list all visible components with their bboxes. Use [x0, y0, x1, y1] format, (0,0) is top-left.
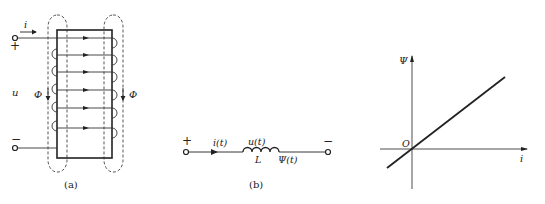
- origin-label: O: [402, 138, 410, 149]
- inductor-coil-icon: [243, 148, 279, 153]
- diagram-canvas: i + − u Φ Φ (a) + − i(t) u(t) L Ψ(t) (b)…: [0, 0, 545, 204]
- figure-c-graph: Ψ i O: [380, 55, 528, 189]
- minus-sign: −: [323, 134, 333, 148]
- plus-sign: +: [182, 134, 192, 148]
- flux-linkage-label: Ψ(t): [278, 154, 298, 165]
- flux-label-left: Φ: [34, 89, 42, 100]
- terminal-minus: [13, 146, 18, 151]
- y-axis-label: Ψ: [399, 55, 409, 66]
- flux-label-right: Φ: [129, 89, 137, 100]
- inductance-label: L: [254, 154, 261, 165]
- figure-a-coil: i + − u Φ Φ (a): [10, 15, 137, 190]
- plus-sign: +: [10, 39, 20, 53]
- winding-arrows: [83, 36, 89, 130]
- terminal-left: [184, 150, 189, 155]
- x-axis-label: i: [520, 153, 523, 164]
- characteristic-line: [387, 77, 505, 168]
- coil-windings: [15, 38, 117, 148]
- voltage-label: u(t): [248, 136, 266, 147]
- terminal-right: [326, 150, 331, 155]
- current-arrow-icon: [211, 149, 218, 155]
- voltage-label: u: [12, 87, 18, 98]
- y-axis-arrow-icon: [410, 55, 414, 62]
- current-label: i(t): [213, 137, 228, 148]
- current-label: i: [24, 19, 27, 30]
- figure-b-inductor: + − i(t) u(t) L Ψ(t) (b): [182, 134, 333, 190]
- caption-a: (a): [64, 179, 78, 190]
- caption-b: (b): [249, 179, 263, 190]
- minus-sign: −: [11, 132, 21, 146]
- x-axis-arrow-icon: [521, 147, 528, 151]
